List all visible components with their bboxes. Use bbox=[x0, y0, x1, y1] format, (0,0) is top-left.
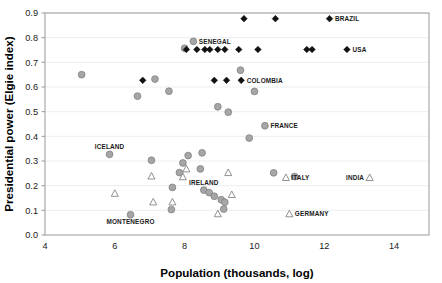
y-tick-label: 0.7 bbox=[25, 58, 38, 68]
point-label: IRELAND bbox=[189, 179, 219, 186]
data-point-circle bbox=[251, 88, 258, 95]
data-point-diamond bbox=[272, 15, 279, 22]
point-label: USA bbox=[352, 46, 366, 53]
data-point-circle bbox=[221, 199, 228, 206]
y-tick-label: 0.0 bbox=[25, 230, 38, 240]
data-point-triangle bbox=[282, 174, 289, 181]
plot-frame bbox=[45, 13, 429, 235]
data-point-triangle bbox=[228, 191, 235, 198]
y-tick-label: 0.4 bbox=[25, 132, 38, 142]
data-point-diamond bbox=[255, 46, 262, 53]
data-point-circle bbox=[220, 206, 227, 213]
y-tick-label: 0.9 bbox=[25, 8, 38, 18]
data-point-circle bbox=[148, 157, 155, 164]
data-point-diamond bbox=[326, 15, 333, 22]
data-point-diamond bbox=[238, 77, 245, 84]
data-point-diamond bbox=[235, 46, 242, 53]
data-point-circle bbox=[237, 67, 244, 74]
data-point-triangle bbox=[169, 198, 176, 205]
x-tick-label: 8 bbox=[182, 241, 187, 251]
y-tick-label: 0.1 bbox=[25, 206, 38, 216]
data-point-circle bbox=[78, 71, 85, 78]
x-tick-label: 4 bbox=[42, 241, 47, 251]
data-point-circle bbox=[190, 38, 197, 45]
data-point-diamond bbox=[309, 46, 316, 53]
data-point-diamond bbox=[241, 15, 248, 22]
data-point-triangle bbox=[148, 172, 155, 179]
data-point-diamond bbox=[223, 77, 230, 84]
data-point-circle bbox=[214, 103, 221, 110]
data-point-circle bbox=[106, 151, 113, 158]
data-point-diamond bbox=[206, 46, 213, 53]
data-points-layer bbox=[78, 15, 373, 218]
data-point-circle bbox=[179, 160, 186, 167]
y-tick-label: 0.6 bbox=[25, 82, 38, 92]
data-point-triangle bbox=[225, 169, 232, 176]
data-point-circle bbox=[168, 206, 175, 213]
data-point-circle bbox=[262, 122, 269, 129]
data-point-circle bbox=[166, 88, 173, 95]
point-label: GERMANY bbox=[295, 210, 329, 217]
point-label: BRAZIL bbox=[335, 15, 359, 22]
data-point-diamond bbox=[194, 46, 201, 53]
y-tick-label: 0.2 bbox=[25, 181, 38, 191]
data-point-circle bbox=[197, 165, 204, 172]
point-label: ICELAND bbox=[95, 143, 125, 150]
chart-canvas: 0.00.10.20.30.40.50.60.70.80.9 468101214… bbox=[0, 0, 442, 283]
x-tick-label: 12 bbox=[319, 241, 329, 251]
data-point-circle bbox=[185, 152, 192, 159]
y-tick-label: 0.5 bbox=[25, 107, 38, 117]
x-axis-ticks: 468101214 bbox=[42, 241, 399, 251]
x-axis-title: Population (thousands, log) bbox=[160, 266, 313, 279]
data-point-circle bbox=[199, 149, 206, 156]
data-point-diamond bbox=[344, 46, 351, 53]
data-point-circle bbox=[169, 184, 176, 191]
y-axis-ticks: 0.00.10.20.30.40.50.60.70.80.9 bbox=[25, 8, 45, 240]
data-point-triangle bbox=[111, 190, 118, 197]
y-axis-title: Presidential power (Elgie index) bbox=[2, 36, 15, 211]
x-tick-label: 14 bbox=[389, 241, 399, 251]
data-point-circle bbox=[134, 93, 141, 100]
data-point-diamond bbox=[221, 46, 228, 53]
data-point-circle bbox=[270, 169, 277, 176]
y-tick-label: 0.3 bbox=[25, 156, 38, 166]
data-point-diamond bbox=[215, 46, 222, 53]
y-tick-label: 0.8 bbox=[25, 33, 38, 43]
data-point-circle bbox=[246, 135, 253, 142]
data-point-circle bbox=[211, 193, 218, 200]
data-point-triangle bbox=[286, 210, 293, 217]
data-point-circle bbox=[225, 109, 232, 116]
point-label: SENEGAL bbox=[199, 38, 231, 45]
data-point-diamond bbox=[211, 77, 218, 84]
plot-border bbox=[45, 13, 429, 235]
data-point-circle bbox=[152, 76, 159, 83]
point-label: MONTENEGRO bbox=[107, 218, 155, 225]
scatter-chart: 0.00.10.20.30.40.50.60.70.80.9 468101214… bbox=[0, 0, 442, 283]
data-point-triangle bbox=[366, 174, 373, 181]
data-point-triangle bbox=[150, 198, 157, 205]
data-point-circle bbox=[127, 211, 134, 218]
point-label: ITALY bbox=[291, 174, 310, 181]
data-point-triangle bbox=[214, 210, 221, 217]
point-label: COLOMBIA bbox=[247, 77, 283, 84]
point-label: FRANCE bbox=[270, 122, 298, 129]
data-point-diamond bbox=[139, 77, 146, 84]
point-label: INDIA bbox=[346, 174, 364, 181]
x-tick-label: 10 bbox=[249, 241, 259, 251]
x-tick-label: 6 bbox=[112, 241, 117, 251]
